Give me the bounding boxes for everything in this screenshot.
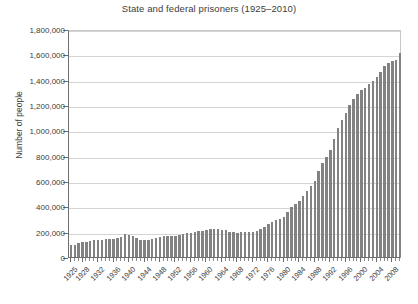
bar [205,230,207,257]
x-axis-tick [372,258,373,261]
x-axis-tick-label: 1964 [212,265,230,283]
x-axis-tick [105,258,106,261]
x-axis-tick [147,258,148,261]
bar [290,207,292,257]
bar [228,232,230,257]
x-axis-tick [178,258,179,261]
x-axis-tick-label: 1932 [89,265,107,283]
bar [286,212,288,257]
x-axis-tick [221,258,222,262]
x-axis-tick [186,258,187,261]
x-axis-tick [233,258,234,261]
x-axis-tick [314,258,315,262]
x-axis-tick [368,258,369,261]
x-axis-tick [384,258,385,261]
x-axis-tick-label: 1980 [274,265,292,283]
x-axis-tick [182,258,183,261]
bar [81,242,83,257]
bar [252,232,254,257]
x-axis-tick [271,258,272,261]
x-axis-tick [244,258,245,261]
bar [105,239,107,257]
x-axis-tick [329,258,330,262]
y-axis-tick-label: 1,200,000 [29,102,65,111]
bar [170,236,172,257]
x-axis-tick [213,258,214,261]
x-axis-tick [275,258,276,261]
x-axis-tick-label: 1972 [243,265,261,283]
x-axis-tick-label: 1976 [259,265,277,283]
bar [348,105,350,257]
x-axis-tick [248,258,249,261]
bar [209,229,211,257]
x-axis-tick-label: 2004 [367,265,385,283]
x-axis-tick [209,258,210,261]
bar [321,163,323,257]
bar [74,245,76,257]
x-axis-tick [236,258,237,262]
x-axis-tick [322,258,323,261]
x-axis-tick [345,258,346,262]
x-axis-tick [295,258,296,261]
x-axis-tick-label: 2000 [352,265,370,283]
x-axis-tick [260,258,261,261]
bar [310,186,312,257]
x-axis-tick [291,258,292,261]
bar [267,224,269,257]
bar [116,238,118,257]
bar [77,243,79,257]
x-axis-tick [399,258,400,261]
x-axis-tick [163,258,164,261]
bar [391,61,393,257]
bar [159,237,161,257]
bar [345,113,347,257]
bar [325,157,327,257]
x-axis-tick [229,258,230,261]
bar [275,220,277,257]
x-axis-tick [356,258,357,261]
x-axis-tick-label: 1996 [336,265,354,283]
y-axis-tick-label: 1,000,000 [29,127,65,136]
y-axis-tick-label: 1,400,000 [29,76,65,85]
bar [166,236,168,257]
bar [271,222,273,257]
x-axis-tick [391,258,392,262]
x-axis-tick [155,258,156,261]
bar [201,231,203,257]
x-axis-tick [109,258,110,261]
x-axis-tick [128,258,129,262]
x-axis-tick [256,258,257,261]
bar [279,219,281,257]
x-axis-tick [120,258,121,261]
bar [89,241,91,257]
x-axis-tick-label: 1988 [305,265,323,283]
bar [70,245,72,257]
x-axis-tick-label: 2008 [383,265,401,283]
bar [333,139,335,257]
bar [379,72,381,257]
bar [306,191,308,257]
x-axis-tick-label: 1948 [150,265,168,283]
x-axis-tick [136,258,137,261]
bar [190,233,192,257]
x-axis-tick [151,258,152,261]
x-axis-tick [333,258,334,261]
y-axis-tick-label: 0 [61,254,65,263]
bar [376,77,378,257]
bar [182,234,184,257]
bar [352,99,354,257]
x-axis-tick [78,258,79,261]
bar [178,235,180,257]
bar [387,63,389,257]
bar [240,232,242,257]
bar [383,66,385,257]
x-axis-tick [70,258,71,262]
bar [232,232,234,257]
x-axis-tick-label: 1960 [197,265,215,283]
x-axis-tick [194,258,195,261]
bar [395,60,397,257]
bar [329,150,331,257]
bar [155,238,157,257]
x-axis-tick [116,258,117,261]
bar [108,239,110,257]
